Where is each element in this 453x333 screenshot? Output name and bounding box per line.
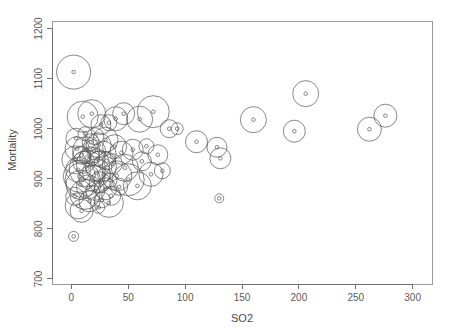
data-point-center [217, 197, 221, 201]
y-tick-label: 1100 [33, 67, 44, 89]
data-points-layer [57, 55, 397, 241]
data-point-center [90, 112, 94, 116]
y-axis-title: Mortality [6, 129, 18, 171]
data-point-center [72, 70, 76, 74]
y-tick-label: 700 [33, 270, 44, 287]
y-tick-label: 1000 [33, 117, 44, 140]
data-point-center [107, 121, 111, 125]
data-point-center [195, 140, 199, 144]
bubble-chart: 050100150200250300700800900100011001200 … [0, 0, 453, 333]
x-tick-label: 50 [123, 292, 135, 303]
data-point-center [105, 159, 109, 163]
data-point-center [304, 92, 308, 96]
data-point-center [140, 159, 144, 163]
x-tick-label: 150 [234, 292, 251, 303]
data-point-center [156, 153, 160, 157]
data-point-center [117, 185, 121, 189]
data-point-bubble [87, 128, 104, 145]
x-tick-label: 100 [177, 292, 194, 303]
x-tick-label: 200 [291, 292, 308, 303]
data-point-bubble [240, 107, 266, 133]
data-point-center [252, 118, 256, 122]
data-point-bubble [293, 81, 319, 107]
axes-layer: 050100150200250300700800900100011001200 [33, 17, 432, 303]
data-point-center [384, 114, 388, 118]
data-point-bubble [69, 231, 79, 241]
data-point-bubble [111, 154, 138, 181]
x-tick-label: 250 [347, 292, 364, 303]
data-point-center [109, 194, 113, 198]
data-point-center [368, 127, 372, 131]
data-point-bubble [374, 104, 397, 127]
data-point-center [145, 144, 149, 148]
data-point-center [149, 172, 153, 176]
data-point-center [136, 184, 140, 188]
data-point-center [151, 110, 155, 114]
data-point-bubble [207, 137, 227, 157]
data-point-bubble [127, 106, 153, 132]
data-point-bubble [139, 139, 154, 154]
data-point-bubble [137, 96, 169, 128]
data-point-bubble [283, 120, 305, 142]
plot-svg: 050100150200250300700800900100011001200 … [0, 0, 453, 333]
x-axis-title: SO2 [231, 312, 253, 324]
y-tick-label: 1200 [33, 17, 44, 40]
data-point-center [122, 112, 126, 116]
data-point-bubble [210, 148, 231, 169]
data-point-bubble [57, 55, 91, 89]
y-tick-label: 800 [33, 220, 44, 237]
data-point-bubble [113, 103, 135, 125]
x-tick-label: 0 [69, 292, 75, 303]
data-point-bubble [215, 194, 224, 203]
data-point-bubble [148, 145, 168, 165]
data-point-center [72, 235, 76, 239]
data-point-bubble [185, 131, 207, 153]
x-tick-label: 300 [404, 292, 421, 303]
data-point-center [81, 115, 85, 119]
y-tick-label: 900 [33, 170, 44, 187]
data-point-bubble [357, 117, 381, 141]
data-point-center [123, 166, 127, 170]
data-point-center [167, 127, 171, 131]
data-point-center [293, 129, 297, 133]
